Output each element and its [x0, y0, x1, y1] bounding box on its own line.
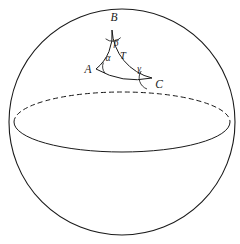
vertex-label-c: C [155, 78, 163, 90]
vertex-label-a: A [83, 63, 92, 75]
vertex-label-b: B [110, 11, 117, 23]
angle-label-gamma: γ [137, 64, 141, 74]
sphere-outline [9, 9, 235, 235]
sphere-diagram: A B C α β γ T [0, 0, 240, 244]
spherical-triangle-figure: A B C α β γ T [0, 0, 240, 244]
angle-label-beta: β [113, 38, 119, 48]
